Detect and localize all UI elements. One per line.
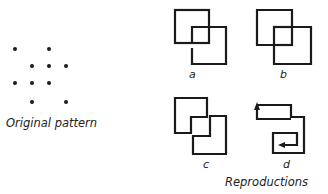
pattern-dot [30, 100, 34, 104]
arrow-icons [254, 102, 285, 148]
pattern-dot [64, 64, 68, 68]
original-pattern-dots [13, 47, 68, 104]
pattern-dot [47, 64, 51, 68]
original-pattern-caption: Original pattern [6, 116, 97, 130]
figure-c-shape [175, 98, 226, 154]
figure-label-d: d [283, 158, 290, 171]
figure-a-shape [175, 10, 226, 64]
figure-b-shape [257, 10, 311, 64]
diagram-canvas [0, 0, 328, 194]
figure-label-b: b [280, 68, 287, 81]
pattern-dot [13, 81, 17, 85]
figure-label-a: a [189, 68, 196, 81]
pattern-dot [30, 64, 34, 68]
pattern-dot [64, 100, 68, 104]
figure-label-c: c [203, 158, 209, 171]
pattern-dot [47, 47, 51, 51]
pattern-dot [30, 81, 34, 85]
arrow-left-icon [278, 142, 285, 148]
reproductions-caption: Reproductions [225, 175, 308, 189]
pattern-dot [47, 81, 51, 85]
pattern-dot [13, 47, 17, 51]
